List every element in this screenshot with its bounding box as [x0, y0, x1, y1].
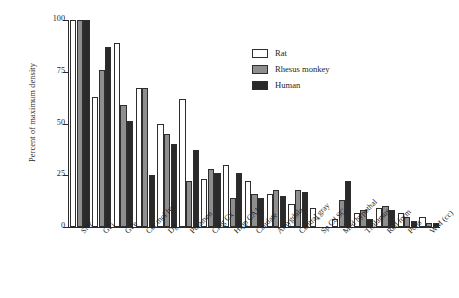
bar-monkey — [142, 88, 148, 227]
bar-group — [354, 20, 375, 227]
y-tick-label: 100 — [53, 14, 65, 23]
legend-item-human: Human — [252, 78, 330, 92]
bar-chart-figure: Percent of maximum density 0255075100 * … — [0, 0, 459, 298]
bar-monkey — [120, 105, 126, 227]
bar-group — [136, 20, 157, 227]
y-tick-label: 25 — [57, 169, 65, 178]
y-tick-label: 50 — [57, 118, 65, 127]
bar-group — [398, 20, 419, 227]
legend-swatch-rhesus-monkey — [252, 65, 268, 74]
bar-human — [105, 47, 111, 227]
bar-group — [114, 20, 135, 227]
bar-rat — [136, 88, 142, 227]
bar-rat — [114, 43, 120, 227]
bar-group — [201, 20, 222, 227]
bar-monkey — [99, 70, 105, 227]
x-axis-labels: SNrGPiGPeCer mol lyrDgPutamenCing CxHipp… — [68, 229, 458, 298]
bar-rat — [179, 99, 185, 227]
y-tick-label: 75 — [57, 66, 65, 75]
y-axis-title: Percent of maximum density — [28, 18, 37, 208]
bar-human — [127, 121, 133, 227]
bar-human — [193, 150, 199, 227]
bar-group — [332, 20, 353, 227]
legend-item-rhesus-monkey: Rhesus monkey — [252, 62, 330, 76]
legend-label-human: Human — [275, 80, 300, 90]
bar-group — [70, 20, 91, 227]
bar-group — [157, 20, 178, 227]
legend-swatch-human — [252, 81, 268, 90]
bar-group — [92, 20, 113, 227]
bar-rat — [70, 20, 76, 227]
bar-monkey — [77, 20, 83, 227]
bar-group — [376, 20, 397, 227]
bar-group — [179, 20, 200, 227]
legend-swatch-rat — [252, 49, 268, 58]
bar-group — [223, 20, 244, 227]
bar-rat — [92, 97, 98, 227]
bar-human — [171, 144, 177, 227]
legend-item-rat: Rat — [252, 46, 330, 60]
legend-label-rat: Rat — [275, 48, 287, 58]
bar-human — [83, 20, 89, 227]
y-tick-label: 0 — [61, 221, 65, 230]
bar-monkey — [186, 181, 192, 227]
legend: Rat Rhesus monkey Human — [252, 46, 330, 94]
bar-group — [419, 20, 440, 227]
y-tick-0: 0 — [68, 227, 73, 228]
legend-label-rhesus-monkey: Rhesus monkey — [275, 64, 330, 74]
